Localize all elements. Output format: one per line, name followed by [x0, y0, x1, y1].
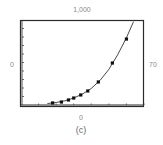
figure-caption: (c): [76, 126, 87, 135]
data-point: [72, 96, 75, 99]
data-point: [86, 89, 89, 92]
data-point: [125, 37, 128, 40]
xmax-label: 70: [149, 61, 157, 68]
chart-plot: [0, 0, 163, 145]
data-point: [60, 100, 63, 103]
data-point: [97, 80, 100, 83]
data-point: [51, 101, 54, 104]
ymin-label: 0: [79, 114, 83, 121]
data-point: [79, 93, 82, 96]
data-point: [67, 98, 70, 101]
xmin-label: 0: [10, 61, 14, 68]
data-point: [111, 61, 114, 64]
ymax-label: 1,000: [73, 6, 91, 13]
